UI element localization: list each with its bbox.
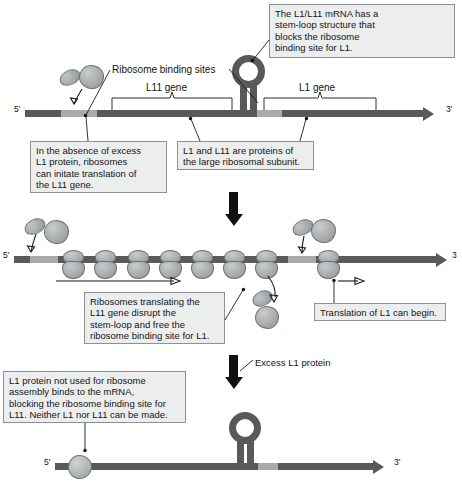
callout-l1-blocks: L1 protein not used for ribosome assembl… <box>3 371 186 423</box>
transition-arrow-1-head <box>225 214 243 226</box>
ribosome-large-subunit-p1 <box>79 65 104 89</box>
callout-translation-begins: Translation of L1 can begin. <box>314 303 446 321</box>
mrna-binding-site-l1-p1 <box>257 110 282 117</box>
ribosome-large-subunit-p2-released <box>255 306 279 329</box>
callout-ribosomes-disrupt: Ribosomes translating the L11 gene disru… <box>84 292 225 344</box>
label-5-prime-p3: 5' <box>44 457 50 467</box>
ribosome-on-mrna-l1-bot <box>317 261 340 279</box>
ribosome-large-subunit-p2-left <box>44 220 69 244</box>
ribosome-on-mrna-1-bot <box>62 261 85 279</box>
mrna-strand-p1-seg1 <box>25 110 61 117</box>
label-3-prime-p2: 3 <box>452 250 457 260</box>
mrna-strand-p3-seg2 <box>101 463 244 470</box>
label-excess-l1-protein: Excess L1 protein <box>255 357 331 368</box>
mrna-3prime-arrowhead-p1 <box>423 107 434 121</box>
transition-arrow-1-shaft <box>229 192 238 214</box>
mrna-3prime-arrowhead-p3 <box>373 460 384 474</box>
label-5-prime-p1: 5' <box>14 104 20 114</box>
transition-arrow-2-shaft <box>229 355 238 377</box>
transition-arrow-2-head <box>225 377 243 389</box>
callout-stem-loop: The L1/L11 mRNA has a stem-loop structur… <box>269 4 455 58</box>
label-3-prime-p1: 3' <box>446 104 452 114</box>
mrna-binding-site-l1-p3 <box>258 463 278 470</box>
label-l1-gene: L1 gene <box>299 82 335 93</box>
ribosome-on-mrna-5-bot <box>191 261 214 279</box>
ribosome-on-mrna-3-bot <box>127 261 150 279</box>
mrna-strand-p2-seg1 <box>14 256 30 263</box>
figure-canvas: The L1/L11 mRNA has a stem-loop structur… <box>0 0 462 482</box>
mrna-binding-site-l1-p2 <box>288 256 316 263</box>
mrna-3prime-arrowhead-p2 <box>436 253 447 267</box>
ribosome-large-subunit-p2-right <box>311 219 336 243</box>
label-ribosome-binding-sites: Ribosome binding sites <box>112 64 215 75</box>
callout-no-excess-l1: In the absence of excess L1 protein, rib… <box>30 141 167 193</box>
mrna-strand-p3-seg4 <box>278 463 373 470</box>
mrna-binding-site-l11-p1 <box>61 110 97 117</box>
callout-l1-l11-proteins: L1 and L11 are proteins of the large rib… <box>177 141 314 170</box>
ribosome-on-mrna-4-bot <box>159 261 182 279</box>
l1-protein-bound <box>68 455 92 479</box>
stem-loop-loop-p1 <box>232 55 265 88</box>
label-5-prime-p2: 5' <box>3 250 9 260</box>
mrna-strand-p1-seg2 <box>97 110 240 117</box>
ribosome-on-mrna-6-bot <box>223 261 246 279</box>
ribosome-on-mrna-7-bot <box>255 261 278 279</box>
stem-loop-loop-p3 <box>229 412 261 444</box>
mrna-binding-site-l11-p2 <box>30 256 58 263</box>
label-3-prime-p3: 3' <box>394 457 400 467</box>
label-l11-gene: L11 gene <box>146 82 187 93</box>
mrna-strand-p1-seg4 <box>282 110 423 117</box>
ribosome-on-mrna-2-bot <box>94 261 117 279</box>
